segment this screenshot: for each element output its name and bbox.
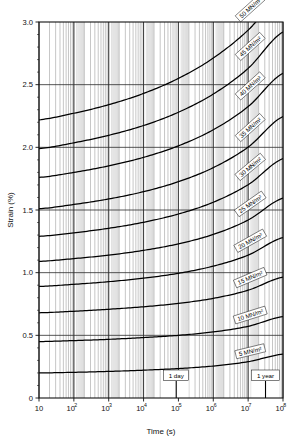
y-tick-label: 0: [29, 394, 33, 403]
x-tick-exponent: 4: [144, 402, 147, 408]
y-tick-label: 3.0: [22, 18, 33, 27]
x-axis-title: Time (s): [146, 427, 175, 436]
y-tick-label: 1.0: [22, 268, 33, 277]
x-tick-exponent: 7: [248, 402, 251, 408]
one-year-marker: 1 year: [251, 370, 279, 398]
y-tick-label: 2.0: [22, 143, 33, 152]
annotation-text: 1 year: [257, 372, 274, 379]
annotation-text: 1 day: [169, 372, 185, 379]
x-tick-exponent: 2: [74, 402, 77, 408]
x-tick-exponent: 6: [214, 402, 217, 408]
y-axis-title: Strain (%): [6, 192, 15, 228]
creep-curves-figure: 5 MN/m²10 MN/m²15 MN/m²20 MN/m²25 MN/m²3…: [0, 0, 297, 447]
y-tick-label: 1.5: [22, 206, 33, 215]
x-tick-exponent: 5: [179, 402, 182, 408]
y-tick-label: 2.5: [22, 80, 33, 89]
one-day-marker: 1 day: [164, 370, 189, 398]
y-tick-label: 0.5: [22, 331, 33, 340]
x-tick-exponent: 3: [109, 402, 112, 408]
x-tick-label: 10: [35, 404, 43, 413]
chart-svg: 5 MN/m²10 MN/m²15 MN/m²20 MN/m²25 MN/m²3…: [0, 0, 297, 447]
x-tick-exponent: 8: [283, 402, 286, 408]
